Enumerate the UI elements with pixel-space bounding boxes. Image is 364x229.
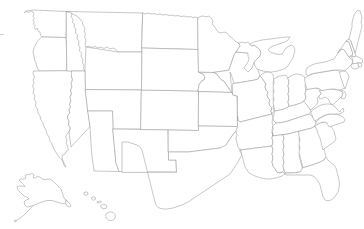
state-OR[interactable]: Oregon [33,37,67,71]
state-CO[interactable]: Colorado [141,90,199,131]
state-WY[interactable]: Wyoming [85,47,142,90]
hawaii-big-island [106,212,116,221]
hawaii-kauai [84,192,88,196]
hawaii-oahu [92,197,96,200]
hawaii-maui [101,204,107,209]
state-IN[interactable]: Indiana [273,75,289,111]
state-ND[interactable]: North Dakota [142,13,198,50]
state-MS[interactable]: Mississippi [272,132,284,173]
state-SD[interactable]: South Dakota [142,48,206,91]
us-map-container: Washington Oregon California Idaho Monta… [0,0,364,229]
us-map-svg: Washington Oregon California Idaho Monta… [0,0,364,229]
hawaii-molokai [98,201,102,203]
state-KS[interactable]: Kansas [199,92,238,127]
state-CT[interactable]: Connecticut [351,63,359,69]
